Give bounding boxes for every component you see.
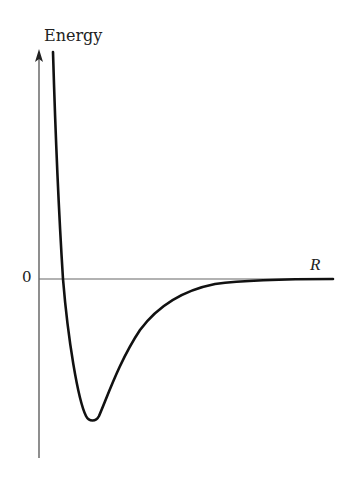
- y-tick-zero: 0: [22, 268, 32, 286]
- y-axis-label: Energy: [44, 26, 102, 45]
- chart-canvas: [0, 0, 359, 478]
- x-axis-label: R: [310, 255, 320, 275]
- energy-curve: [53, 52, 333, 421]
- energy-vs-r-chart: Energy 0 R: [0, 0, 359, 478]
